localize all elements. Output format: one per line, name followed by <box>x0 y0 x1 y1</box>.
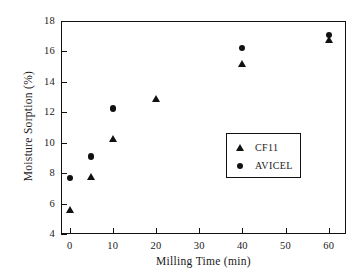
x-axis-tick-label: 0 <box>50 241 90 252</box>
y-axis-tick-label: 16 <box>13 46 55 57</box>
plot-area <box>61 21 346 234</box>
x-axis-tick-label: 10 <box>93 241 133 252</box>
y-axis-tick <box>61 173 67 174</box>
y-axis-tick <box>61 21 67 22</box>
y-axis-tick <box>61 204 67 205</box>
x-axis-tick <box>199 228 200 234</box>
circle-marker-icon <box>237 163 243 169</box>
scatter-chart-figure: 4681012141618 0102030405060 Milling Time… <box>0 0 364 278</box>
x-axis-tick-label: 20 <box>136 241 176 252</box>
x-axis-tick-label: 40 <box>222 241 262 252</box>
chart-legend: CF11 AVICEL <box>226 133 301 178</box>
x-axis-tick <box>156 228 157 234</box>
x-axis-tick-label: 30 <box>179 241 219 252</box>
legend-label-cf11: CF11 <box>255 141 278 155</box>
y-axis-tick-label: 6 <box>13 199 55 210</box>
y-axis-tick-label: 8 <box>13 168 55 179</box>
x-axis-tick <box>242 228 243 234</box>
triangle-marker-icon <box>236 144 244 151</box>
y-axis-tick-label: 10 <box>13 138 55 149</box>
y-axis-tick <box>61 112 67 113</box>
y-axis-title: Moisture Sorption (%) <box>22 46 34 206</box>
y-axis-tick-label: 4 <box>13 229 55 240</box>
y-axis-tick-label: 12 <box>13 107 55 118</box>
y-axis-tick <box>61 234 67 235</box>
y-axis-tick-label: 14 <box>13 77 55 88</box>
legend-label-avicel: AVICEL <box>255 159 293 173</box>
legend-entry-avicel: AVICEL <box>227 159 300 173</box>
x-axis-tick <box>329 228 330 234</box>
y-axis-tick-label: 18 <box>13 16 55 27</box>
x-axis-tick <box>70 228 71 234</box>
x-axis-tick-label: 60 <box>309 241 349 252</box>
y-axis-tick <box>61 143 67 144</box>
x-axis-tick <box>286 228 287 234</box>
x-axis-tick <box>113 228 114 234</box>
y-axis-tick <box>61 51 67 52</box>
x-axis-tick-label: 50 <box>266 241 306 252</box>
y-axis-tick <box>61 82 67 83</box>
x-axis-title: Milling Time (min) <box>61 255 346 267</box>
legend-entry-cf11: CF11 <box>227 141 300 155</box>
